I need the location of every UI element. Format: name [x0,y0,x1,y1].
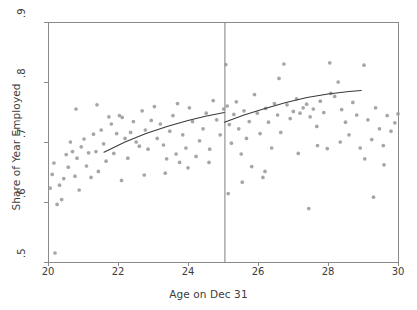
plot-frame [49,23,399,263]
data-point [99,128,103,132]
data-point [267,120,271,124]
data-point [358,146,362,150]
data-point [120,179,124,183]
data-point [218,133,222,137]
data-point [355,113,359,117]
data-point [305,102,309,106]
data-point [322,111,326,115]
data-point [178,161,182,165]
x-tick-label: 24 [168,266,208,277]
data-point [255,111,259,115]
data-point [333,95,337,99]
data-point [204,111,208,115]
data-point [239,152,243,156]
scatter-plot-figure: Share of Year Employed Age on Dec 31 .5.… [0,0,417,310]
y-tick-label-text: .9 [16,9,27,35]
data-point [163,171,167,175]
data-point [191,120,195,124]
data-point [198,139,202,143]
data-point [307,207,311,211]
data-point [149,119,153,123]
data-point [97,170,101,174]
data-point [344,120,348,124]
data-point [107,115,111,119]
data-point [222,107,226,111]
data-point [378,127,382,131]
data-point [153,105,157,109]
data-point [89,176,93,180]
data-point [71,150,75,154]
data-point [336,80,340,84]
data-point [340,108,344,112]
data-point [279,131,283,135]
data-point [201,127,205,131]
data-point [207,161,211,165]
data-point [393,121,397,125]
data-point [62,177,66,181]
data-point [338,140,342,144]
data-point [234,100,238,104]
data-point [146,147,150,151]
data-point [276,113,280,117]
plot-canvas [0,0,417,310]
data-point [208,147,212,151]
data-point [362,63,366,67]
data-point [92,132,96,136]
data-point [143,128,147,132]
data-point [66,165,70,169]
data-point [155,137,159,141]
data-point [112,152,116,156]
data-point [215,118,219,122]
data-point [176,102,180,106]
data-point [69,140,73,144]
y-tick-label-text: .8 [16,69,27,95]
data-point [298,111,302,115]
data-point [174,152,178,156]
data-point [85,164,89,168]
data-point [285,103,289,107]
data-point [95,103,99,107]
data-point [226,192,230,196]
x-tick-label: 28 [308,266,348,277]
data-point [237,127,241,131]
data-point [104,159,108,163]
data-point [123,137,127,141]
data-point [129,131,133,135]
data-point [347,133,351,137]
data-point [126,156,130,160]
fit-line [224,90,361,122]
data-point [374,106,378,110]
data-point [82,137,86,141]
data-point [296,152,300,156]
data-point [325,147,329,151]
data-point [381,144,385,148]
y-tick-label-text: .7 [16,129,27,155]
data-point [194,155,198,159]
data-point [382,163,386,167]
data-point [240,180,244,184]
data-point [363,157,367,161]
data-point [389,129,393,133]
x-tick-label: 26 [238,266,278,277]
data-point [79,145,83,149]
data-point [55,203,59,207]
data-point [351,101,355,105]
y-tick-label: .7 [8,136,34,148]
data-point [102,142,106,146]
data-point [224,63,228,67]
data-point [165,157,169,161]
data-point [253,93,257,97]
data-point [110,122,114,126]
data-point [74,107,78,111]
data-point [159,122,163,126]
data-point [60,198,64,202]
data-point [316,144,320,148]
data-point [311,107,315,111]
data-point [263,170,267,174]
data-point [308,115,312,119]
data-point [242,109,246,113]
data-point [64,153,68,157]
data-point [140,109,144,113]
data-point [270,146,274,150]
data-point [261,176,265,180]
